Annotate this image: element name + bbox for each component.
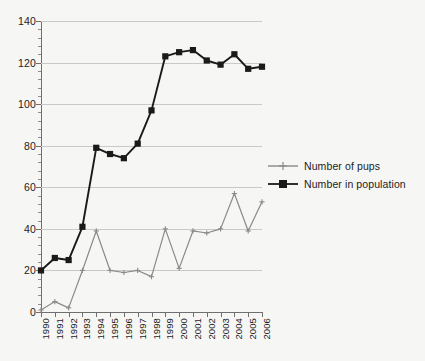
legend-swatch-population	[268, 178, 298, 190]
data-point	[177, 266, 182, 271]
series-line	[41, 194, 262, 310]
data-point	[66, 257, 72, 263]
data-point	[218, 226, 223, 231]
data-point	[121, 270, 126, 275]
data-point	[231, 51, 237, 57]
data-point	[107, 268, 112, 273]
data-point	[190, 47, 196, 53]
data-point	[162, 53, 168, 59]
data-point	[94, 228, 99, 233]
data-point	[79, 224, 85, 230]
data-point	[135, 141, 141, 147]
data-point	[204, 57, 210, 63]
data-point	[38, 267, 44, 273]
legend-item-pups: Number of pups	[268, 158, 406, 173]
data-point	[52, 255, 58, 261]
legend-label-pups: Number of pups	[304, 160, 380, 172]
series-number-in-population	[38, 47, 265, 274]
data-point	[66, 305, 71, 310]
line-chart: 020406080100120140 199019911992199319941…	[0, 0, 425, 361]
data-point	[148, 107, 154, 113]
data-point	[149, 274, 154, 279]
data-point	[107, 151, 113, 157]
legend-item-population: Number in population	[268, 176, 406, 191]
data-point	[93, 145, 99, 151]
data-point	[121, 155, 127, 161]
data-point	[204, 230, 209, 235]
data-point	[176, 49, 182, 55]
data-point	[135, 268, 140, 273]
data-point	[246, 228, 251, 233]
data-point	[52, 299, 57, 304]
data-point	[217, 62, 223, 68]
data-point	[245, 66, 251, 72]
series-line	[41, 50, 262, 270]
data-point	[38, 307, 43, 312]
data-point	[190, 228, 195, 233]
data-point	[259, 199, 264, 204]
legend-label-population: Number in population	[304, 178, 406, 190]
chart-legend: Number of pups Number in population	[268, 158, 406, 194]
data-point	[163, 226, 168, 231]
data-point	[259, 64, 265, 70]
legend-swatch-pups	[268, 160, 298, 172]
data-point	[80, 268, 85, 273]
data-point	[232, 191, 237, 196]
